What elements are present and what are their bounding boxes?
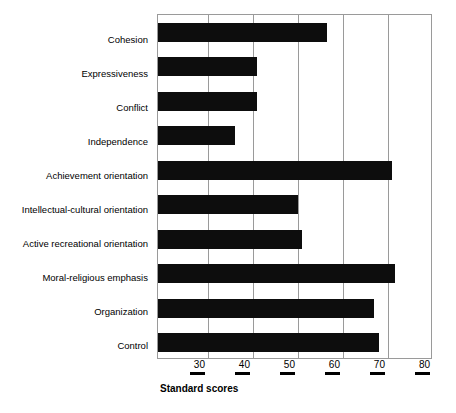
x-tick-label: 70	[370, 359, 385, 371]
x-tick-underline	[190, 372, 205, 375]
x-tick-60: 60	[325, 359, 342, 375]
category-label-intellectual-cultural-orientation: Intellectual-cultural orientation	[22, 204, 148, 215]
x-tick-underline	[415, 372, 430, 375]
category-label-independence: Independence	[88, 136, 148, 147]
x-axis-title: Standard scores	[160, 383, 238, 394]
x-tick-50: 50	[280, 359, 297, 375]
bar	[158, 92, 257, 111]
x-tick-80: 80	[415, 359, 432, 375]
bar	[158, 230, 302, 249]
category-label-moral-religious-emphasis: Moral-religious emphasis	[42, 272, 148, 283]
x-tick-label: 80	[415, 359, 430, 371]
category-axis: Cohesion Expressiveness Conflict Indepen…	[0, 14, 152, 359]
category-label-expressiveness: Expressiveness	[81, 68, 148, 79]
x-tick-underline	[370, 372, 385, 375]
category-label-organization: Organization	[94, 306, 148, 317]
x-tick-underline	[280, 372, 295, 375]
category-label-cohesion: Cohesion	[108, 34, 148, 45]
category-label-active-recreational-orientation: Active recreational orientation	[23, 238, 148, 249]
x-axis-ticks: 304050607080	[157, 359, 456, 381]
bar	[158, 299, 374, 318]
bar	[158, 333, 379, 352]
category-label-control: Control	[117, 340, 148, 351]
gridline-70	[388, 15, 389, 358]
category-label-achievement-orientation: Achievement orientation	[46, 170, 148, 181]
x-tick-label: 60	[325, 359, 340, 371]
bar	[158, 126, 235, 145]
x-tick-label: 30	[190, 359, 205, 371]
x-tick-70: 70	[370, 359, 387, 375]
bar	[158, 161, 392, 180]
x-tick-40: 40	[235, 359, 252, 375]
x-tick-label: 40	[235, 359, 250, 371]
bar-chart: Cohesion Expressiveness Conflict Indepen…	[0, 0, 456, 413]
x-tick-label: 50	[280, 359, 295, 371]
bar	[158, 23, 327, 42]
x-tick-30: 30	[190, 359, 207, 375]
x-tick-underline	[235, 372, 250, 375]
category-label-conflict: Conflict	[116, 102, 148, 113]
plot-area	[157, 14, 432, 359]
x-tick-underline	[325, 372, 340, 375]
bar	[158, 264, 395, 283]
bar	[158, 195, 298, 214]
bar	[158, 57, 257, 76]
